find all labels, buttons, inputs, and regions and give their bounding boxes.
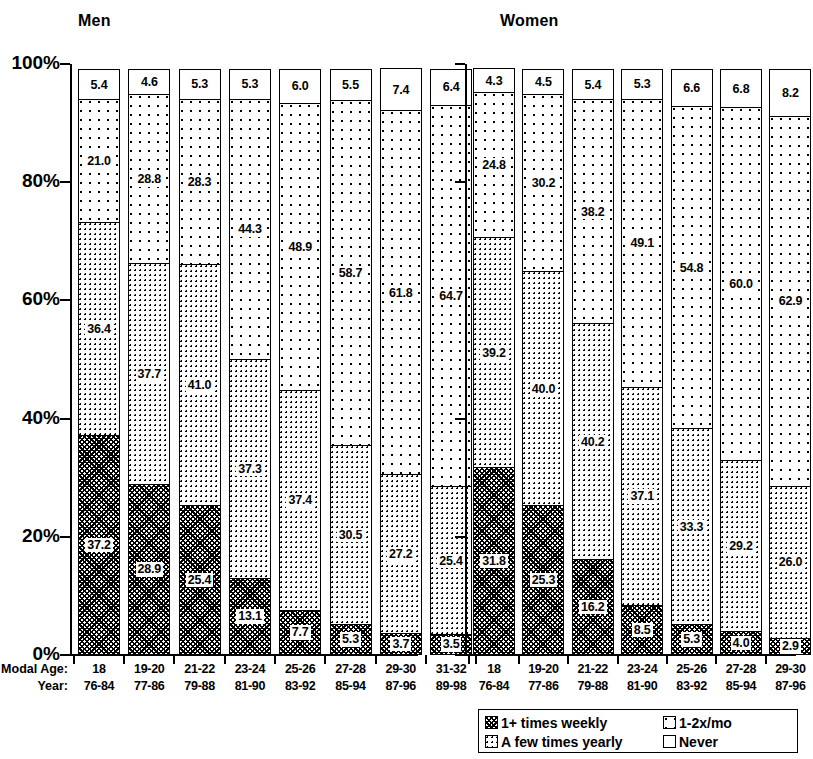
bar-segment: 25.3 [522,505,564,655]
stacked-bar[interactable]: 6.654.833.35.3 [671,69,713,655]
stacked-bar[interactable]: 7.461.827.23.7 [380,68,422,655]
bar-segment: 21.0 [78,99,120,223]
bar-segment-value: 4.6 [139,75,160,90]
y-axis-tick [60,299,70,301]
bar-segment-value: 28.3 [186,175,214,190]
bar-segment-value: 30.2 [530,176,558,191]
bar-segment: 5.4 [572,69,614,101]
stacked-bar[interactable]: 5.421.036.437.2 [78,69,120,655]
stacked-bar[interactable]: 8.262.926.02.9 [769,69,811,655]
stacked-bar[interactable]: 4.324.839.231.8 [473,68,515,655]
bar-segment: 8.2 [769,69,811,117]
bar-segment-value: 25.4 [437,554,465,569]
bar-segment-value: 6.4 [441,80,462,95]
stacked-bar[interactable]: 5.558.730.55.3 [330,69,372,655]
legend-label-never: Never [679,735,718,749]
bar-segment: 4.3 [473,68,515,93]
bar-segment: 5.3 [179,69,221,100]
bar-segment: 30.2 [522,94,564,272]
bar-segment: 26.0 [769,486,811,640]
bar-segment: 62.9 [769,116,811,488]
stacked-bar[interactable]: 4.530.240.025.3 [522,69,564,655]
y-axis-tick [60,181,70,183]
panel-title-women: Women [500,12,558,30]
x-axis-age-label: 25-26 [671,662,713,676]
stacked-bar[interactable]: 5.344.337.313.1 [229,69,271,655]
bar-segment: 4.6 [128,69,170,96]
stacked-bar[interactable]: 5.438.240.216.2 [572,69,614,655]
y-axis-tick [60,654,70,656]
x-axis-year-label: 81-90 [229,679,271,693]
legend-label-weekly: 1+ times weekly [501,716,607,730]
x-axis-tick [324,655,326,664]
x-axis-age-label: 23-24 [229,662,271,676]
y-axis-tick-label: 100% [11,52,60,74]
y-axis-line-men [70,64,72,655]
x-axis-year-label: 76-84 [78,679,120,693]
bar-segment-value: 28.9 [136,562,164,577]
bar-segment-value: 7.7 [290,625,311,640]
x-axis-age-label: 18 [473,662,515,676]
bar-segment-value: 6.8 [731,82,752,97]
stacked-bar[interactable]: 6.860.029.24.0 [720,69,762,655]
x-axis-year-label: 79-88 [179,679,221,693]
y-axis-tick [455,418,465,420]
x-axis-year-label: 89-98 [430,679,472,693]
y-axis-tick [60,418,70,420]
x-axis-year-label: 81-90 [621,679,663,693]
x-axis-age-label: 27-28 [330,662,372,676]
x-axis-tick [518,655,520,664]
y-axis-labels: 100%80%60%40%20%0% [0,64,60,655]
y-axis-tick [60,63,70,65]
bar-segment: 8.5 [621,605,663,655]
bar-segment: 54.8 [671,106,713,430]
x-axis-year-label: 87-96 [380,679,422,693]
bar-segment-value: 25.4 [186,573,214,588]
bar-segment-value: 28.8 [136,172,164,187]
bar-segment-value: 37.3 [236,462,264,477]
y-axis-tick [455,181,465,183]
bar-segment-value: 21.0 [85,154,113,169]
stacked-bar[interactable]: 4.628.837.728.9 [128,69,170,655]
x-axis-age-label: 19-20 [522,662,564,676]
bar-segment-value: 8.2 [780,86,801,101]
stacked-bar[interactable]: 5.328.341.025.4 [179,69,221,655]
legend-swatch-never-icon [663,735,676,748]
x-axis-tick [73,655,75,664]
y-axis-tick-label: 20% [22,525,60,547]
bar-segment-value: 7.4 [390,83,411,98]
bar-segment-value: 4.3 [484,74,505,89]
bar-segment: 28.9 [128,484,170,655]
stacked-bar[interactable]: 5.349.137.18.5 [621,69,663,655]
bar-segment-value: 5.3 [189,77,210,92]
bar-segment: 31.8 [473,467,515,655]
bar-segment: 25.4 [179,505,221,655]
bar-segment-value: 64.7 [437,289,465,304]
x-axis-year-label: 76-84 [473,679,515,693]
bar-segment-value: 5.3 [681,632,702,647]
bar-segment: 44.3 [229,99,271,361]
x-axis-tick [617,655,619,664]
y-axis-tick [455,536,465,538]
stacked-bar[interactable]: 6.048.937.47.7 [279,69,321,655]
x-axis-year-label: 79-88 [572,679,614,693]
bar-segment: 38.2 [572,99,614,325]
bar-segment-value: 2.9 [780,639,801,654]
bar-segment: 6.6 [671,69,713,108]
bar-segment: 5.4 [78,69,120,101]
bar-segment-value: 30.5 [337,528,365,543]
bar-segment-value: 48.9 [286,240,314,255]
bar-segment: 6.8 [720,69,762,109]
bar-segment-value: 29.2 [727,539,755,554]
bar-segment: 40.0 [522,271,564,507]
bar-segment-value: 25.3 [530,573,558,588]
x-axis-year-label: 87-96 [769,679,811,693]
bar-segment-value: 39.2 [480,346,508,361]
bar-segment: 60.0 [720,107,762,462]
bar-segment-value: 26.0 [777,555,805,570]
x-axis-tick [224,655,226,664]
x-axis-tick [567,655,569,664]
bar-segment: 58.7 [330,100,372,447]
x-axis-age-label: 27-28 [720,662,762,676]
bar-segment: 61.8 [380,110,422,475]
